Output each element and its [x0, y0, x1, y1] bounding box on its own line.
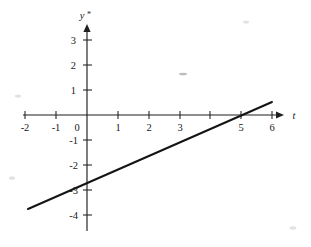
y-tick-label--3: -3: [69, 185, 78, 196]
scan-speck: [15, 94, 21, 97]
x-tick-label--2: -2: [21, 122, 30, 133]
scan-speck: [9, 176, 15, 180]
scan-artifact-dash: [179, 73, 187, 76]
y-axis-label-star: *: [87, 10, 91, 19]
y-axis-label: y: [79, 10, 85, 21]
x-tick-label-2: 2: [146, 122, 151, 133]
y-tick-label-3: 3: [71, 35, 76, 46]
x-tick-label-6: 6: [269, 122, 274, 133]
y-tick-label--2: -2: [69, 160, 78, 171]
scan-speck: [243, 20, 249, 23]
x-tick-label-0: 0: [74, 122, 79, 133]
x-tick-label--1: -1: [52, 122, 61, 133]
coordinate-plane-figure: -2 -1 0 1 2 3 5 6 3 2 1 -1 -2 -3 -4 y * …: [0, 0, 311, 247]
x-tick-label-1: 1: [115, 122, 120, 133]
scan-speck: [290, 226, 297, 229]
x-tick-label-5: 5: [238, 122, 243, 133]
y-tick-label--1: -1: [69, 135, 78, 146]
x-tick-label-3: 3: [177, 122, 182, 133]
y-tick-label-1: 1: [71, 85, 76, 96]
y-tick-label-2: 2: [71, 60, 76, 71]
y-tick-label--4: -4: [69, 210, 78, 221]
figure-background: [0, 0, 311, 247]
